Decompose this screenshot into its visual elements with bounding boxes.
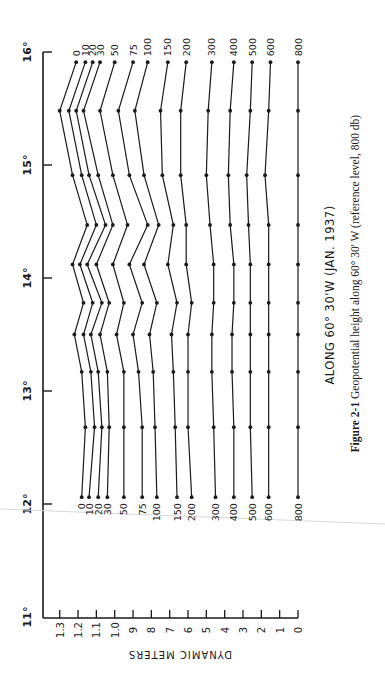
data-point xyxy=(146,223,150,227)
dyn-meter-tick-label: 8 xyxy=(146,627,157,633)
data-point xyxy=(212,425,216,429)
data-point xyxy=(91,301,95,305)
data-point xyxy=(184,263,188,267)
data-point xyxy=(173,425,177,429)
figure-number: Figure 2-1 xyxy=(349,399,362,452)
data-point xyxy=(160,173,164,177)
series-label-top: 50 xyxy=(109,44,120,56)
series-label-bottom: 800 xyxy=(293,503,304,521)
data-point xyxy=(208,223,212,227)
latitude-tick-label: 12° xyxy=(21,494,34,515)
data-point xyxy=(296,301,300,305)
data-point xyxy=(140,301,144,305)
data-point xyxy=(111,173,115,177)
data-point xyxy=(296,109,300,113)
data-point xyxy=(131,333,135,337)
data-point xyxy=(245,173,249,177)
data-point xyxy=(248,301,252,305)
data-point xyxy=(232,263,236,267)
data-point xyxy=(155,495,159,499)
data-point xyxy=(80,370,84,374)
data-point xyxy=(214,495,218,499)
data-point xyxy=(122,425,126,429)
data-point xyxy=(131,60,135,64)
dyn-meter-tick-label: 1.3 xyxy=(55,622,66,638)
data-point xyxy=(232,301,236,305)
chart-title: ALONG 60° 30'W (JAN. 1937) xyxy=(323,205,337,384)
data-point xyxy=(83,60,87,64)
data-point xyxy=(296,425,300,429)
data-point xyxy=(226,173,230,177)
data-point xyxy=(87,495,91,499)
figure-caption-text: Geopotential height along 60° 30' W (ref… xyxy=(349,115,362,399)
series-lines xyxy=(58,60,300,499)
data-point xyxy=(179,109,183,113)
series-label-top: 400 xyxy=(228,38,239,56)
series-label-top: 200 xyxy=(181,38,192,56)
data-point xyxy=(116,109,120,113)
data-point xyxy=(267,263,271,267)
data-point xyxy=(96,173,100,177)
data-point xyxy=(96,495,100,499)
data-point xyxy=(148,333,152,337)
data-point xyxy=(159,109,163,113)
series-line-75 xyxy=(118,62,147,497)
data-point xyxy=(107,425,111,429)
data-point xyxy=(179,173,183,177)
data-point xyxy=(228,223,232,227)
data-point xyxy=(82,109,86,113)
dyn-meter-tick-label: 7 xyxy=(165,627,176,633)
series-line-300 xyxy=(206,62,215,497)
series-label-top: 800 xyxy=(293,38,304,56)
data-point xyxy=(94,263,98,267)
data-point xyxy=(140,425,144,429)
series-line-10 xyxy=(69,62,96,497)
data-point xyxy=(248,425,252,429)
latitude-tick-label: 11° xyxy=(21,607,34,628)
latitude-tick-label: 16° xyxy=(21,42,34,63)
data-point xyxy=(250,495,254,499)
data-point xyxy=(71,263,75,267)
series-label-bottom: 300 xyxy=(210,503,221,521)
data-point xyxy=(74,109,78,113)
data-point xyxy=(87,173,91,177)
data-point xyxy=(80,495,84,499)
data-point xyxy=(230,333,234,337)
data-point xyxy=(122,301,126,305)
dyn-meter-tick-label: 9 xyxy=(128,627,139,633)
series-line-0 xyxy=(60,62,87,497)
series-label-bottom: 600 xyxy=(263,503,274,521)
series-label-top: 150 xyxy=(162,38,173,56)
data-point xyxy=(204,173,208,177)
series-line-50 xyxy=(100,62,127,497)
data-point xyxy=(296,60,300,64)
data-point xyxy=(184,60,188,64)
latitude-tick-label: 14° xyxy=(21,268,34,289)
data-point xyxy=(296,223,300,227)
data-point xyxy=(153,425,157,429)
data-point xyxy=(210,333,214,337)
data-point xyxy=(74,60,78,64)
series-label-top: 300 xyxy=(206,38,217,56)
series-label-bottom: 50 xyxy=(118,503,129,515)
series-label-top: 600 xyxy=(265,38,276,56)
data-point xyxy=(267,301,271,305)
data-point xyxy=(78,263,82,267)
data-point xyxy=(140,495,144,499)
data-point xyxy=(91,60,95,64)
data-point xyxy=(267,109,271,113)
data-point xyxy=(72,333,76,337)
data-point xyxy=(127,263,131,267)
dyn-meter-tick-label: 2 xyxy=(256,627,267,633)
data-point xyxy=(98,109,102,113)
data-point xyxy=(232,495,236,499)
data-point xyxy=(93,425,97,429)
data-point xyxy=(146,60,150,64)
data-point xyxy=(157,223,161,227)
data-point xyxy=(175,495,179,499)
data-point xyxy=(122,495,126,499)
data-point xyxy=(296,370,300,374)
data-point xyxy=(186,370,190,374)
series-label-top: 30 xyxy=(95,44,106,56)
data-point xyxy=(296,333,300,337)
